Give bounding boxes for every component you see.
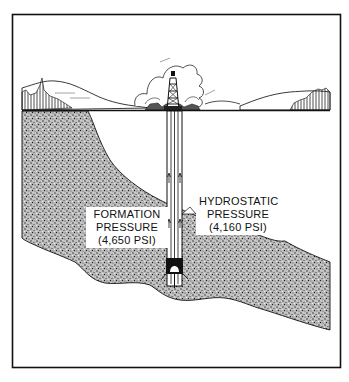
formation-label-line1: FORMATION <box>89 208 165 221</box>
hydrostatic-label-line2: PRESSURE <box>199 208 277 221</box>
hydrostatic-label-line1: HYDROSTATIC <box>199 195 277 208</box>
formation-label-line2: PRESSURE <box>89 221 165 234</box>
well-pressure-diagram: FORMATION PRESSURE (4,650 PSI) HYDROSTAT… <box>0 0 349 382</box>
formation-pressure-label: FORMATION PRESSURE (4,650 PSI) <box>86 207 168 248</box>
formation-label-line3: (4,650 PSI) <box>89 234 165 247</box>
hydrostatic-label-line3: (4,160 PSI) <box>199 221 277 234</box>
diagram-illustration <box>0 0 349 382</box>
hydrostatic-pressure-label: HYDROSTATIC PRESSURE (4,160 PSI) <box>196 194 280 235</box>
